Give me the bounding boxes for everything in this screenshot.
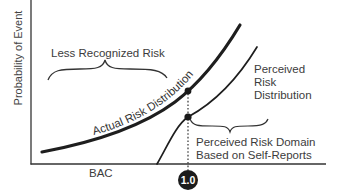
less-recognized-brace xyxy=(48,60,167,80)
perceived-risk-distribution-label-2: Risk xyxy=(254,76,276,89)
x-axis-label: BAC xyxy=(89,167,113,180)
actual-risk-label: Actual Risk Distribution xyxy=(91,68,195,137)
y-axis-label: Probability of Event xyxy=(12,3,24,113)
perceived-risk-distribution-label-1: Perceived xyxy=(254,63,305,76)
less-recognized-risk-label: Less Recognized Risk xyxy=(51,47,165,60)
bac-value-badge: 1.0 xyxy=(178,170,198,190)
perceived-risk-domain-label-1: Perceived Risk Domain xyxy=(196,136,316,149)
perceived-risk-distribution-label-3: Distribution xyxy=(254,89,312,102)
actual-risk-curve xyxy=(42,25,240,152)
perceived-domain-brace xyxy=(190,119,268,132)
actual-risk-label-text: Actual Risk Distribution xyxy=(91,68,195,137)
perceived-risk-domain-label-2: Based on Self-Reports xyxy=(196,149,312,162)
actual-intersection-dot xyxy=(185,88,192,95)
